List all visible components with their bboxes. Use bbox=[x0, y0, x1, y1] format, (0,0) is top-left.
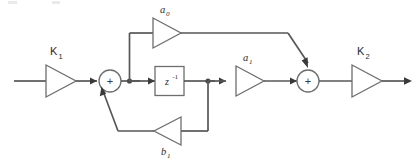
delay-block-label: z bbox=[164, 76, 169, 87]
gain-block-a0[interactable] bbox=[153, 18, 181, 48]
wire-a0-diagonal-to-sum2 bbox=[288, 33, 308, 63]
signal-flow-diagram: + z -1 + bbox=[0, 0, 417, 160]
arrowhead-output bbox=[404, 77, 412, 85]
label-k2: K bbox=[357, 45, 365, 57]
delay-block-superscript: -1 bbox=[173, 73, 178, 80]
label-a0: a bbox=[160, 4, 165, 15]
arrowhead-into-sum1 bbox=[90, 78, 97, 85]
gain-block-b1[interactable] bbox=[154, 117, 181, 145]
wire-b1-diagonal-to-sum1 bbox=[103, 91, 118, 131]
gain-block-a1[interactable] bbox=[236, 66, 264, 96]
label-a1-subscript: 1 bbox=[249, 58, 253, 66]
label-a1: a bbox=[243, 52, 248, 63]
label-b1: b bbox=[161, 146, 166, 157]
label-a0-subscript: 0 bbox=[166, 10, 170, 18]
sum1-plus-sign: + bbox=[107, 75, 113, 87]
label-k1: K bbox=[50, 45, 58, 57]
arrowhead-into-sum2 bbox=[290, 78, 297, 85]
label-k1-subscript: 1 bbox=[59, 52, 63, 61]
arrowhead-into-delay bbox=[148, 78, 155, 85]
gain-block-k1[interactable] bbox=[46, 65, 76, 97]
arrowhead-a0-into-sum2 bbox=[302, 57, 308, 68]
label-b1-subscript: 1 bbox=[167, 152, 171, 160]
gain-block-k2[interactable] bbox=[352, 65, 382, 97]
block-diagram-canvas: + z -1 + bbox=[0, 0, 417, 160]
label-k2-subscript: 2 bbox=[366, 52, 370, 61]
sum2-plus-sign: + bbox=[305, 75, 311, 87]
delay-block-z-inverse[interactable] bbox=[155, 67, 184, 96]
